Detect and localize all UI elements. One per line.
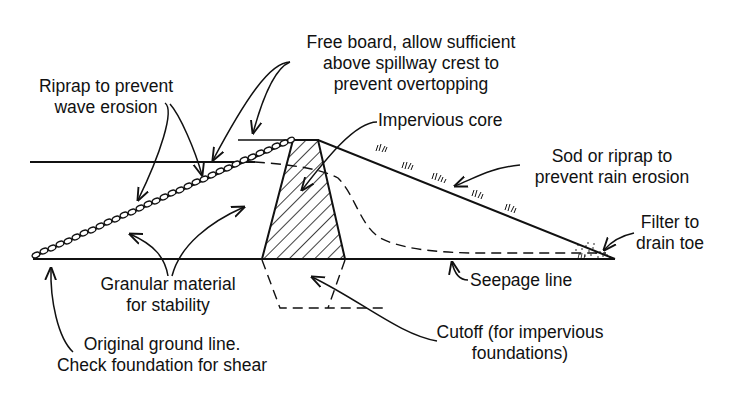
label-seepage-line: Seepage line bbox=[470, 270, 572, 291]
impervious-core bbox=[262, 140, 345, 259]
label-granular-material: Granular material for stability bbox=[88, 274, 248, 316]
label-impervious-core: Impervious core bbox=[378, 110, 503, 131]
cutoff-trench bbox=[262, 260, 386, 308]
label-filter-toe: Filter to drain toe bbox=[630, 212, 710, 254]
label-original-ground-line: Original ground line. Check foundation f… bbox=[44, 334, 280, 376]
label-riprap: Riprap to prevent wave erosion bbox=[30, 76, 182, 118]
riprap-stones bbox=[31, 136, 295, 259]
label-cutoff: Cutoff (for impervious foundations) bbox=[420, 322, 620, 364]
label-sod-riprap: Sod or riprap to prevent rain erosion bbox=[512, 146, 712, 188]
label-freeboard: Free board, allow sufficient above spill… bbox=[275, 32, 547, 95]
sod-grass-tufts bbox=[376, 144, 516, 213]
